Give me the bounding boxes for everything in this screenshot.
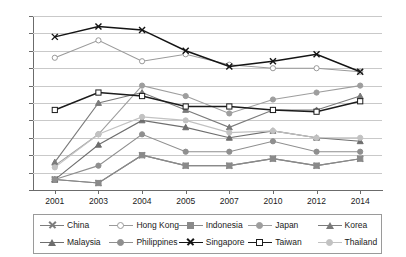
- legend-marker-circle-icon: [109, 237, 133, 247]
- legend-item-singapore[interactable]: Singapore: [173, 234, 242, 250]
- x-axis-label: 2007: [209, 196, 249, 206]
- x-axis-label: 2001: [35, 196, 75, 206]
- legend-item-taiwan[interactable]: Taiwan: [242, 234, 311, 250]
- x-axis-tick: [55, 190, 56, 194]
- x-axis-line: [33, 190, 383, 191]
- x-axis-tick: [360, 190, 361, 194]
- legend-marker-circle-icon: [318, 237, 342, 247]
- x-axis-label: 2012: [297, 196, 337, 206]
- x-axis-tick: [186, 190, 187, 194]
- x-axis-tick: [229, 190, 230, 194]
- legend-marker-circle-icon: [109, 220, 133, 230]
- legend-item-thailand[interactable]: Thailand: [312, 234, 381, 250]
- legend-item-korea[interactable]: Korea: [312, 217, 381, 233]
- legend-item-philippines[interactable]: Philippines: [103, 234, 172, 250]
- legend-marker-square-icon: [179, 220, 203, 230]
- legend-marker-square-icon: [248, 237, 272, 247]
- x-axis-label: 2010: [253, 196, 293, 206]
- x-axis-tick: [317, 190, 318, 194]
- legend-label: China: [67, 220, 89, 230]
- legend-label: Malaysia: [67, 237, 101, 247]
- x-axis-label: 2003: [78, 196, 118, 206]
- legend-item-china[interactable]: China: [34, 217, 103, 233]
- series-indonesia: [52, 153, 363, 186]
- legend-label: Philippines: [136, 237, 177, 247]
- series-hong-kong: [52, 38, 363, 75]
- x-axis-tick: [142, 190, 143, 194]
- legend-item-japan[interactable]: Japan: [242, 217, 311, 233]
- legend-label: Thailand: [345, 237, 378, 247]
- x-axis-label: 2014: [340, 196, 380, 206]
- legend-label: Korea: [345, 220, 368, 230]
- legend-item-malaysia[interactable]: Malaysia: [34, 234, 103, 250]
- legend-marker-x-icon: [179, 237, 203, 247]
- legend-row-2: MalaysiaPhilippinesSingaporeTaiwanThaila…: [34, 234, 381, 250]
- series-japan: [52, 83, 363, 168]
- x-axis-label: 2004: [122, 196, 162, 206]
- series-layer: [33, 16, 382, 190]
- chart-container: ChinaHong KongIndonesiaJapanKorea Malays…: [0, 0, 406, 257]
- legend-label: Singapore: [206, 237, 245, 247]
- plot-area: [33, 16, 382, 190]
- legend-label: Taiwan: [275, 237, 301, 247]
- legend-marker-triangle-icon: [318, 220, 342, 230]
- legend-item-indonesia[interactable]: Indonesia: [173, 217, 242, 233]
- legend-item-hong-kong[interactable]: Hong Kong: [103, 217, 172, 233]
- chart-legend: ChinaHong KongIndonesiaJapanKorea Malays…: [33, 214, 382, 254]
- legend-label: Japan: [275, 220, 298, 230]
- y-axis-tick: [29, 190, 33, 191]
- legend-marker-triangle-icon: [40, 237, 64, 247]
- legend-label: Indonesia: [206, 220, 243, 230]
- x-axis-tick: [273, 190, 274, 194]
- legend-marker-x-icon: [40, 220, 64, 230]
- legend-row-1: ChinaHong KongIndonesiaJapanKorea: [34, 217, 381, 233]
- x-axis-label: 2005: [166, 196, 206, 206]
- x-axis-tick: [98, 190, 99, 194]
- legend-marker-circle-icon: [248, 220, 272, 230]
